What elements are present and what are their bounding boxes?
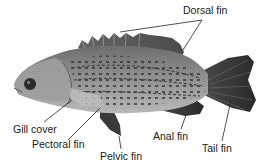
dorsal-leader-line-b [183, 20, 202, 50]
pelvic-leader-line [119, 136, 121, 149]
label-anal-fin: Anal fin [153, 130, 188, 142]
label-gill-cover: Gill cover [13, 123, 57, 135]
dorsal-leader-line-a [120, 20, 202, 32]
anal-leader-line [181, 115, 186, 129]
eye [24, 78, 36, 90]
fish-diagram: Dorsal fin Gill cover Pectoral fin Pelvi… [0, 0, 268, 168]
label-pectoral-fin: Pectoral fin [32, 138, 85, 150]
gill-cover [14, 58, 72, 104]
label-tail-fin: Tail fin [202, 142, 232, 154]
label-pelvic-fin: Pelvic fin [100, 150, 142, 162]
label-dorsal-fin: Dorsal fin [183, 4, 227, 16]
tail-leader-line [222, 100, 231, 141]
pectoral-leader-line [68, 108, 100, 140]
tail-fin [200, 55, 256, 112]
